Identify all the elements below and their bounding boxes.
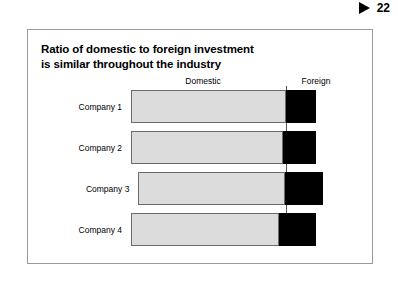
page-number: 22 bbox=[377, 2, 390, 14]
table-row: Company 3 bbox=[138, 172, 323, 205]
bar-row-label: Company 1 bbox=[79, 102, 122, 112]
column-header-foreign: Foreign bbox=[302, 76, 331, 86]
bar-row-label: Company 3 bbox=[86, 184, 129, 194]
bar-segment-foreign bbox=[285, 172, 324, 205]
bar-segment-domestic bbox=[138, 172, 284, 205]
stacked-bar-chart: Domestic Foreign Company 1Company 2Compa… bbox=[28, 30, 374, 265]
bar-segment-foreign bbox=[283, 131, 316, 164]
slide-frame: Ratio of domestic to foreign investment … bbox=[27, 29, 373, 264]
page-marker: 22 bbox=[359, 2, 390, 14]
bar-segment-foreign bbox=[279, 213, 316, 246]
bar-row-label: Company 2 bbox=[79, 143, 122, 153]
table-row: Company 2 bbox=[131, 131, 316, 164]
table-row: Company 4 bbox=[131, 213, 316, 246]
table-row: Company 1 bbox=[131, 90, 316, 123]
bar-segment-foreign bbox=[286, 90, 316, 123]
bar-row-label: Company 4 bbox=[79, 225, 122, 235]
play-triangle-icon bbox=[359, 2, 370, 14]
column-header-domestic: Domestic bbox=[185, 76, 220, 86]
bar-segment-domestic bbox=[131, 213, 279, 246]
bar-segment-domestic bbox=[131, 131, 283, 164]
slide-screenshot: 22 Ratio of domestic to foreign investme… bbox=[0, 0, 398, 283]
bar-segment-domestic bbox=[131, 90, 286, 123]
